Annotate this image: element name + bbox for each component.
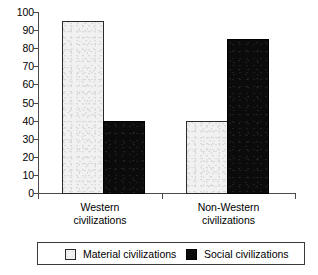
category-label-line1: Non-Western: [198, 201, 260, 213]
category-label-line2: civilizations: [169, 214, 289, 227]
y-tick-mark-30: [33, 139, 38, 140]
x-tick-middle: [162, 193, 163, 199]
y-tick-label-50: 50: [0, 98, 34, 108]
y-tick-label-80: 80: [0, 43, 34, 53]
y-tick-label-90: 90: [0, 25, 34, 35]
x-tick-end: [295, 193, 296, 199]
y-tick-label-0: 0: [0, 188, 34, 198]
category-label-2: Non-Westerncivilizations: [169, 201, 289, 226]
black-swatch-icon: [186, 249, 197, 260]
category-label-line2: civilizations: [40, 214, 160, 227]
plot-area: 1009080706050403020100 Westerncivilizati…: [0, 0, 318, 232]
category-label-1: Westerncivilizations: [40, 201, 160, 226]
legend-item-social: Social civilizations: [186, 247, 289, 261]
bar-chart: 1009080706050403020100 Westerncivilizati…: [0, 0, 318, 275]
y-tick-mark-80: [33, 48, 38, 49]
y-tick-label-10: 10: [0, 170, 34, 180]
y-tick-mark-60: [33, 84, 38, 85]
bar-2-social: [227, 39, 269, 194]
light-gray-swatch-icon: [65, 249, 76, 260]
bar-2-material: [186, 121, 228, 194]
y-tick-mark-40: [33, 121, 38, 122]
y-tick-mark-100: [33, 12, 38, 13]
category-label-line1: Western: [81, 201, 120, 213]
y-tick-mark-70: [33, 66, 38, 67]
y-tick-label-20: 20: [0, 152, 34, 162]
y-tick-label-100: 100: [0, 7, 34, 17]
legend-item-material: Material civilizations: [65, 247, 176, 261]
x-tick-start: [38, 193, 39, 199]
y-tick-label-40: 40: [0, 116, 34, 126]
y-tick-label-60: 60: [0, 79, 34, 89]
y-tick-mark-90: [33, 30, 38, 31]
y-axis-line: [38, 12, 39, 194]
chart-legend: Material civilizations Social civilizati…: [37, 242, 305, 265]
y-tick-label-30: 30: [0, 134, 34, 144]
legend-label-material: Material civilizations: [83, 249, 176, 260]
y-tick-label-70: 70: [0, 61, 34, 71]
y-tick-mark-10: [33, 175, 38, 176]
legend-label-social: Social civilizations: [204, 249, 289, 260]
y-tick-mark-50: [33, 103, 38, 104]
y-tick-mark-20: [33, 157, 38, 158]
bar-1-social: [103, 121, 145, 194]
bar-1-material: [62, 21, 104, 194]
